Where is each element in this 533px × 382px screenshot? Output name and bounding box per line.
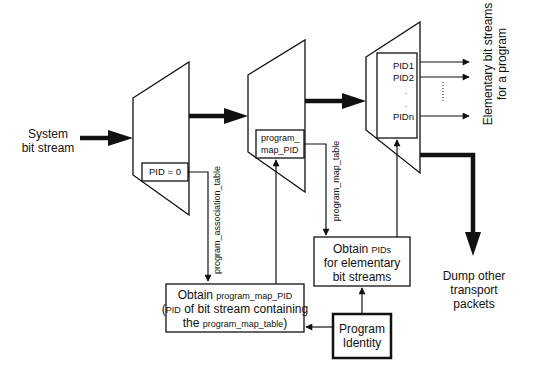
pid-2-label: PID2 — [393, 72, 414, 83]
pid-0-label: PID = 0 — [149, 166, 181, 177]
program-map-pid-line1: program_ — [261, 133, 301, 143]
pid-n-label: PIDn — [393, 111, 414, 122]
dump-arrow-icon — [465, 232, 481, 256]
input-label-line2: bit stream — [22, 141, 75, 155]
program-map-pid-line2: map_PID — [261, 145, 299, 155]
obtain-pids-box: Obtain PIDs for elementary bit streams — [314, 237, 410, 286]
dump-label-line3: packets — [453, 297, 494, 311]
obtain-program-map-pid-box: Obtain program_map_PID (PID of bit strea… — [162, 284, 308, 332]
obtain-pmt-line1: Obtain program_map_PID — [178, 288, 293, 302]
obtain-pids-line1: Obtain PIDs — [333, 242, 392, 256]
demux-1: PID = 0 — [133, 62, 189, 215]
demux-3: PID1 PID2 . . PIDn — [366, 22, 420, 173]
obtain-pids-line3: bit streams — [333, 270, 392, 284]
arrow-head-icon — [224, 108, 248, 124]
demux-diagram: System bit stream PID = 0 program_ map_P… — [0, 0, 533, 382]
elementary-outputs: Elementary bit streams for a program — [420, 3, 509, 126]
obtain-pmt-line2: (PID of bit stream containing — [162, 302, 308, 316]
obtain-pids-line2: for elementary — [324, 256, 401, 270]
input-arrow-icon — [108, 130, 133, 146]
program-identity-line1: Program — [339, 322, 385, 336]
dump-label-line2: transport — [450, 283, 498, 297]
pmt-edge: program_map_table — [304, 141, 341, 235]
pat-edge: program_association_table — [188, 166, 222, 281]
elementary-label-line1: Elementary bit streams — [481, 3, 495, 126]
pmt-label: program_map_table — [331, 141, 341, 222]
demux-1-shape — [133, 62, 189, 215]
obtain-pmt-line3: the program_map_table) — [183, 316, 288, 330]
system-bit-stream-input: System bit stream — [22, 127, 133, 155]
dump-output: Dump other transport packets — [420, 155, 505, 311]
input-label-line1: System — [28, 127, 68, 141]
pid-ellipsis-1: . — [405, 87, 407, 96]
program-identity-box: Program Identity — [333, 314, 391, 358]
arrow-head-icon — [342, 93, 366, 109]
pid-ellipsis-2: . — [405, 100, 407, 109]
elementary-label-line2: for a program — [495, 28, 509, 100]
pid-1-label: PID1 — [393, 60, 414, 71]
pat-label: program_association_table — [212, 166, 222, 274]
dump-label-line1: Dump other — [443, 269, 506, 283]
program-identity-line2: Identity — [343, 336, 382, 350]
